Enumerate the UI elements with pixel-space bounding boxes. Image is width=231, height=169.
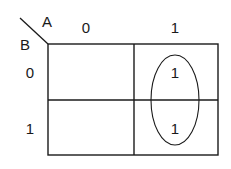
column-header-0: 0 bbox=[82, 19, 90, 36]
row-header-0: 0 bbox=[26, 64, 34, 81]
column-header-1: 1 bbox=[171, 19, 179, 36]
karnaugh-map: A B 0 1 0 1 1 1 bbox=[0, 0, 231, 169]
row-header-1: 1 bbox=[26, 120, 34, 137]
cell-b1-a1: 1 bbox=[171, 120, 179, 137]
row-variable-label: B bbox=[20, 36, 30, 53]
column-variable-label: A bbox=[42, 13, 52, 30]
cell-b0-a1: 1 bbox=[171, 64, 179, 81]
